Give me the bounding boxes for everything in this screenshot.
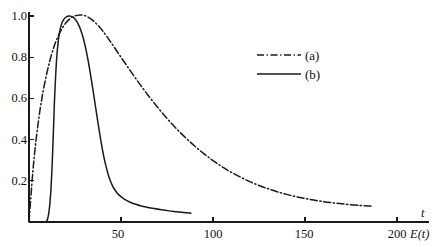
x-axis-title: t (421, 207, 424, 220)
xtick-label-4: 200 (381, 228, 413, 241)
xtick-label-3: 150 (288, 228, 320, 241)
chart-plot-area (0, 0, 438, 247)
legend-label-a: (a) (305, 49, 319, 62)
ytick-label-2: 0.8 (11, 51, 27, 64)
curve-a (29, 15, 371, 222)
data-curves (29, 15, 371, 222)
legend-label-b: (b) (305, 68, 320, 81)
ytick-label-4: 0.4 (11, 134, 27, 147)
legend-sample-lines (257, 55, 301, 74)
xtick-label-1: 50 (104, 228, 132, 241)
ytick-label-3: 0.6 (11, 92, 27, 105)
corner-axis-title: E(t) (410, 228, 429, 241)
curve-b (46, 16, 190, 222)
ytick-label-5: 0.2 (11, 175, 27, 188)
axis-ticks (29, 16, 397, 222)
xtick-label-2: 100 (197, 228, 229, 241)
ytick-label-1: 1.0 (11, 10, 27, 23)
chart-figure: 1.0 0.8 0.6 0.4 0.2 50 100 150 200 t E(t… (0, 0, 438, 247)
axes-group (29, 12, 429, 222)
